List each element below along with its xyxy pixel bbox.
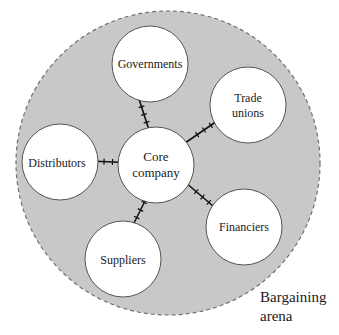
trade-unions-label-line1: Trade <box>234 91 262 105</box>
suppliers-label: Suppliers <box>100 253 146 267</box>
core-company-label-line1: Core <box>143 149 169 164</box>
governments-label: Governments <box>118 57 183 71</box>
trade-unions-node: Trade unions <box>210 67 286 143</box>
financiers-node: Financiers <box>206 189 282 265</box>
bargaining-arena-diagram: Core company Governments Trade unions Di… <box>0 0 339 335</box>
arena-label-line1: Bargaining <box>260 289 327 305</box>
trade-unions-label-line2: unions <box>232 106 264 120</box>
financiers-label: Financiers <box>219 220 269 234</box>
distributors-node: Distributors <box>22 124 98 200</box>
suppliers-node: Suppliers <box>85 221 161 297</box>
core-company-label-line2: company <box>132 165 180 180</box>
core-company-node: Core company <box>118 127 194 203</box>
distributors-label: Distributors <box>28 156 86 170</box>
governments-node: Governments <box>112 26 188 102</box>
arena-label-line2: arena <box>260 308 293 324</box>
